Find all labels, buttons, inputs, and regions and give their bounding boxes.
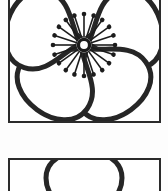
scan-sheet xyxy=(0,0,168,191)
five-petal-flower-panel xyxy=(8,0,161,123)
flower-center xyxy=(77,38,92,53)
flower-artwork xyxy=(10,0,159,121)
petal-arc-artwork xyxy=(10,160,159,191)
petal-outline xyxy=(46,160,122,191)
panel-gap xyxy=(0,123,168,158)
petal-outline-panel xyxy=(8,158,161,191)
